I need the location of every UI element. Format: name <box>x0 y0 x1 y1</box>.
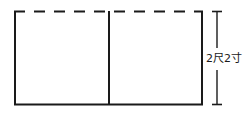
dimension-label: 2尺2寸 <box>203 48 245 70</box>
figure-container: 2尺2寸 <box>0 0 252 119</box>
